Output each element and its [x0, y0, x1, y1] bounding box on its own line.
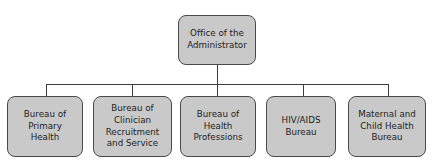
org-node-maternal-and-child-health-bureau[interactable]: Maternal and Child Health Bureau — [348, 96, 426, 157]
connector-drop-bureau-of-primary-health — [46, 85, 47, 96]
org-node-bureau-of-clinician-recruitment-and-service[interactable]: Bureau of Clinician Recruitment and Serv… — [93, 96, 172, 157]
org-node-bureau-of-primary-health[interactable]: Bureau of Primary Health — [7, 96, 83, 157]
org-node-office-of-the-administrator[interactable]: Office of the Administrator — [178, 15, 256, 65]
connector-drop-bureau-of-clinician-recruitment-and-service — [132, 85, 133, 96]
org-node-hiv-aids-bureau[interactable]: HIV/AIDS Bureau — [266, 96, 336, 157]
connector-drop-hiv-aids-bureau — [303, 85, 304, 96]
org-node-bureau-of-health-professions[interactable]: Bureau of Health Professions — [180, 96, 256, 157]
connector-drop-bureau-of-health-professions — [217, 85, 218, 96]
connector-drop-maternal-and-child-health-bureau — [388, 85, 389, 96]
org-chart: Office of the Administrator Bureau of Pr… — [0, 0, 434, 168]
connector-root-stem — [217, 65, 218, 85]
